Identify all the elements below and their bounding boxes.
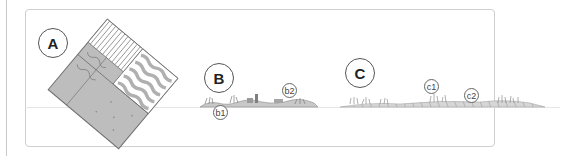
panel-a-block [48,19,178,149]
panel-label-b: B [204,63,234,93]
panel-label-a: A [38,28,68,58]
panel-c-terrain [340,94,545,107]
callout-c2: c2 [464,88,479,103]
callout-c1: c1 [424,79,439,94]
panel-label-c: C [345,58,375,88]
callout-b1: b1 [213,105,228,120]
callout-b2: b2 [282,83,297,98]
figure-illustration [0,0,562,156]
